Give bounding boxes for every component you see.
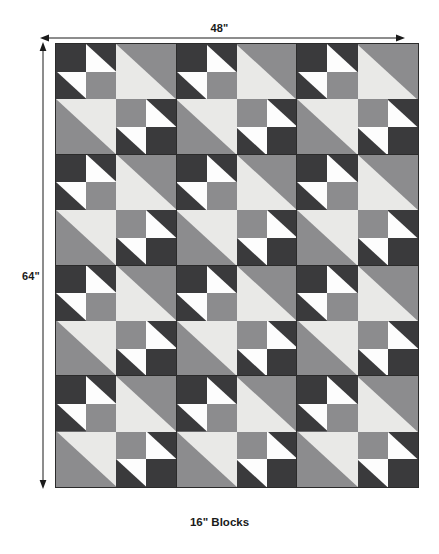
unit-large-hst-light-medium-ne (116, 266, 176, 321)
unit-background (177, 266, 207, 294)
quilt-block (177, 155, 298, 266)
half-square-triangle (388, 321, 418, 349)
half-square-triangle (56, 99, 116, 154)
unit-solid-dark (388, 127, 418, 155)
quilt-block (56, 376, 177, 487)
quilt-block (56, 44, 177, 155)
unit-background (86, 182, 116, 210)
unit-background (297, 155, 327, 183)
bottom-right-quadrant (116, 210, 176, 265)
unit-large-hst-light-medium-ne (358, 44, 418, 99)
unit-solid-medium (86, 72, 116, 100)
unit-large-hst-light-medium-sw (56, 210, 116, 265)
unit-solid-medium (116, 432, 146, 460)
half-square-triangle (237, 376, 297, 431)
half-square-triangle (86, 44, 116, 72)
bottom-right-quadrant (237, 432, 297, 487)
unit-solid-dark (267, 127, 297, 155)
half-square-triangle (177, 432, 237, 487)
unit-hst-white-dark-ne (388, 432, 418, 460)
unit-solid-dark (297, 376, 327, 404)
half-square-triangle (237, 44, 297, 99)
bottom-left-quadrant (56, 99, 116, 154)
quilt-block (56, 155, 177, 266)
unit-hst-white-dark-sw (177, 404, 207, 432)
unit-background (358, 210, 388, 238)
top-left-quadrant (297, 376, 357, 431)
half-square-triangle (146, 432, 176, 460)
bottom-right-quadrant (237, 99, 297, 154)
unit-solid-medium (327, 404, 357, 432)
unit-hst-white-dark-sw (116, 459, 146, 487)
unit-large-hst-light-medium-ne (116, 155, 176, 210)
unit-solid-medium (237, 321, 267, 349)
half-square-triangle (116, 238, 146, 266)
top-left-quadrant (297, 266, 357, 321)
top-right-quadrant (116, 155, 176, 210)
unit-solid-dark (388, 349, 418, 377)
top-right-quadrant (116, 44, 176, 99)
unit-background (297, 44, 327, 72)
half-square-triangle (297, 182, 327, 210)
half-square-triangle (207, 376, 237, 404)
top-left-quadrant (297, 44, 357, 99)
unit-hst-white-dark-sw (297, 404, 327, 432)
unit-solid-dark (267, 349, 297, 377)
unit-large-hst-light-medium-ne (237, 44, 297, 99)
unit-hst-white-dark-sw (177, 293, 207, 321)
half-square-triangle (267, 432, 297, 460)
bottom-left-quadrant (297, 321, 357, 376)
top-right-quadrant (358, 155, 418, 210)
quilt-block (56, 266, 177, 377)
unit-solid-medium (237, 99, 267, 127)
half-square-triangle (388, 432, 418, 460)
unit-solid-medium (207, 72, 237, 100)
unit-background (267, 459, 297, 487)
bottom-right-quadrant (358, 210, 418, 265)
unit-solid-dark (56, 376, 86, 404)
unit-hst-white-dark-ne (146, 432, 176, 460)
unit-solid-medium (358, 210, 388, 238)
half-square-triangle (388, 99, 418, 127)
unit-hst-white-dark-sw (116, 238, 146, 266)
half-square-triangle (86, 155, 116, 183)
bottom-left-quadrant (177, 321, 237, 376)
half-square-triangle (237, 238, 267, 266)
unit-background (86, 72, 116, 100)
unit-solid-medium (237, 432, 267, 460)
bottom-left-quadrant (177, 432, 237, 487)
unit-background (267, 238, 297, 266)
unit-solid-medium (358, 99, 388, 127)
unit-large-hst-light-medium-ne (358, 155, 418, 210)
unit-large-hst-light-medium-sw (177, 210, 237, 265)
unit-background (237, 210, 267, 238)
unit-solid-dark (297, 155, 327, 183)
unit-background (297, 266, 327, 294)
quilt-block (177, 376, 298, 487)
top-left-quadrant (297, 155, 357, 210)
unit-hst-white-dark-sw (116, 127, 146, 155)
unit-solid-medium (207, 293, 237, 321)
unit-hst-white-dark-ne (327, 376, 357, 404)
unit-background (56, 44, 86, 72)
half-square-triangle (56, 432, 116, 487)
half-square-triangle (56, 182, 86, 210)
top-right-quadrant (358, 376, 418, 431)
half-square-triangle (237, 459, 267, 487)
half-square-triangle (297, 293, 327, 321)
unit-background (116, 432, 146, 460)
top-left-quadrant (177, 376, 237, 431)
half-square-triangle (297, 321, 357, 376)
unit-background (86, 404, 116, 432)
unit-hst-white-dark-sw (56, 72, 86, 100)
half-square-triangle (267, 99, 297, 127)
quilt-block (177, 44, 298, 155)
unit-hst-white-dark-ne (327, 155, 357, 183)
unit-hst-white-dark-ne (207, 155, 237, 183)
unit-hst-white-dark-sw (56, 293, 86, 321)
unit-solid-medium (358, 432, 388, 460)
unit-solid-dark (267, 238, 297, 266)
unit-hst-white-dark-ne (388, 99, 418, 127)
unit-large-hst-light-medium-sw (297, 210, 357, 265)
quilt-layout (55, 43, 419, 488)
